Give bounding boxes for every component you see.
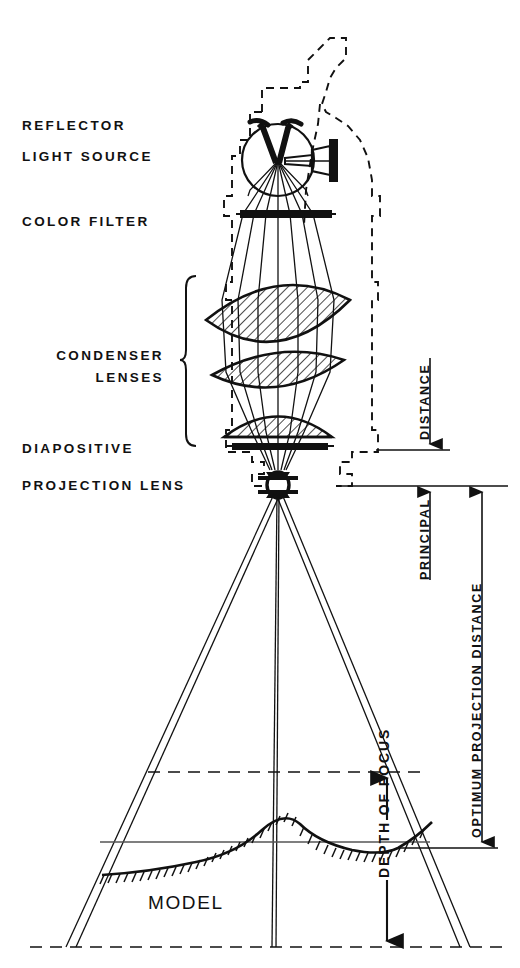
label-principal-distance-part1: DISTANCE: [418, 363, 432, 440]
condenser-lens-2: [212, 352, 344, 388]
lamp-assembly: [242, 121, 337, 196]
label-model: MODEL: [148, 892, 224, 914]
color-filter-bar: [236, 210, 336, 218]
label-condenser-lenses-line1: CONDENSER: [14, 345, 164, 367]
label-diapositive: DIAPOSITIVE: [22, 441, 134, 456]
diapositive-slide: [226, 443, 334, 450]
condenser-lens-1: [206, 285, 350, 342]
label-depth-of-focus: DEPTH OF FOCUS: [376, 728, 392, 878]
label-principal-distance-part2: PRINCIPAL: [418, 498, 432, 580]
label-color-filter: COLOR FILTER: [22, 214, 150, 229]
label-light-source: LIGHT SOURCE: [22, 149, 153, 164]
figure-canvas: REFLECTOR LIGHT SOURCE COLOR FILTER COND…: [0, 0, 520, 968]
projection-lens: [258, 472, 298, 498]
projection-cone: [66, 494, 470, 947]
condenser-brace: [180, 276, 196, 446]
label-optimum-projection-distance: OPTIMUM PROJECTION DISTANCE: [470, 582, 484, 838]
condenser-lens-3: [224, 417, 332, 438]
label-reflector: REFLECTOR: [22, 118, 126, 133]
label-projection-lens: PROJECTION LENS: [22, 478, 186, 493]
label-condenser-lenses-line2: LENSES: [14, 367, 164, 389]
